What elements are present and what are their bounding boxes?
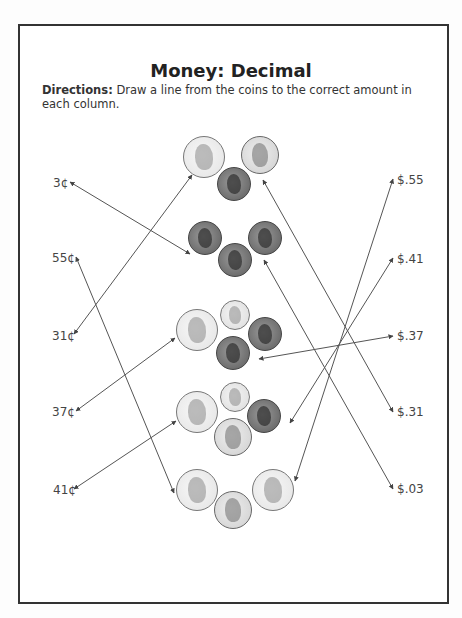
decimal-amount-label: $.03	[397, 482, 424, 496]
penny-coin-icon	[218, 243, 252, 277]
quarter-coin-icon	[183, 136, 225, 178]
cents-amount-label: 3¢	[53, 176, 68, 190]
penny-coin-icon	[248, 221, 282, 255]
decimal-amount-label: $.55	[397, 173, 424, 187]
penny-coin-icon	[217, 167, 251, 201]
answer-line	[263, 180, 393, 412]
cents-amount-label: 41¢	[53, 483, 76, 497]
coin-portrait	[226, 343, 240, 363]
coin-portrait	[264, 477, 282, 503]
coin-portrait	[252, 143, 268, 166]
coin-portrait	[188, 399, 206, 425]
penny-coin-icon	[188, 221, 222, 255]
answer-line	[70, 182, 190, 254]
quarter-coin-icon	[252, 469, 294, 511]
decimal-amount-label: $.31	[397, 405, 424, 419]
answer-line	[74, 421, 176, 489]
coin-portrait	[258, 228, 272, 248]
dime-coin-icon	[220, 300, 250, 330]
nickel-coin-icon	[214, 491, 252, 529]
quarter-coin-icon	[176, 309, 218, 351]
coin-portrait	[229, 388, 241, 406]
nickel-coin-icon	[214, 418, 252, 456]
penny-coin-icon	[247, 399, 281, 433]
coin-portrait	[225, 498, 241, 521]
dime-coin-icon	[220, 382, 250, 412]
coin-portrait	[225, 425, 241, 448]
nickel-coin-icon	[241, 136, 279, 174]
coin-portrait	[188, 317, 206, 343]
answer-line	[74, 175, 192, 334]
quarter-coin-icon	[176, 469, 218, 511]
coin-portrait	[188, 477, 206, 503]
coin-portrait	[229, 306, 241, 324]
coin-portrait	[227, 174, 241, 194]
cents-amount-label: 55¢	[52, 251, 75, 265]
penny-coin-icon	[216, 336, 250, 370]
decimal-amount-label: $.41	[397, 252, 424, 266]
cents-amount-label: 37¢	[52, 405, 75, 419]
coin-portrait	[198, 228, 212, 248]
answer-line	[76, 338, 175, 411]
coin-portrait	[257, 406, 271, 426]
coin-portrait	[195, 144, 213, 170]
coin-portrait	[258, 324, 272, 344]
decimal-amount-label: $.37	[397, 329, 424, 343]
penny-coin-icon	[248, 317, 282, 351]
answer-line	[264, 260, 393, 489]
answer-line	[295, 179, 393, 481]
cents-amount-label: 31¢	[52, 329, 75, 343]
coin-portrait	[228, 250, 242, 270]
quarter-coin-icon	[176, 391, 218, 433]
